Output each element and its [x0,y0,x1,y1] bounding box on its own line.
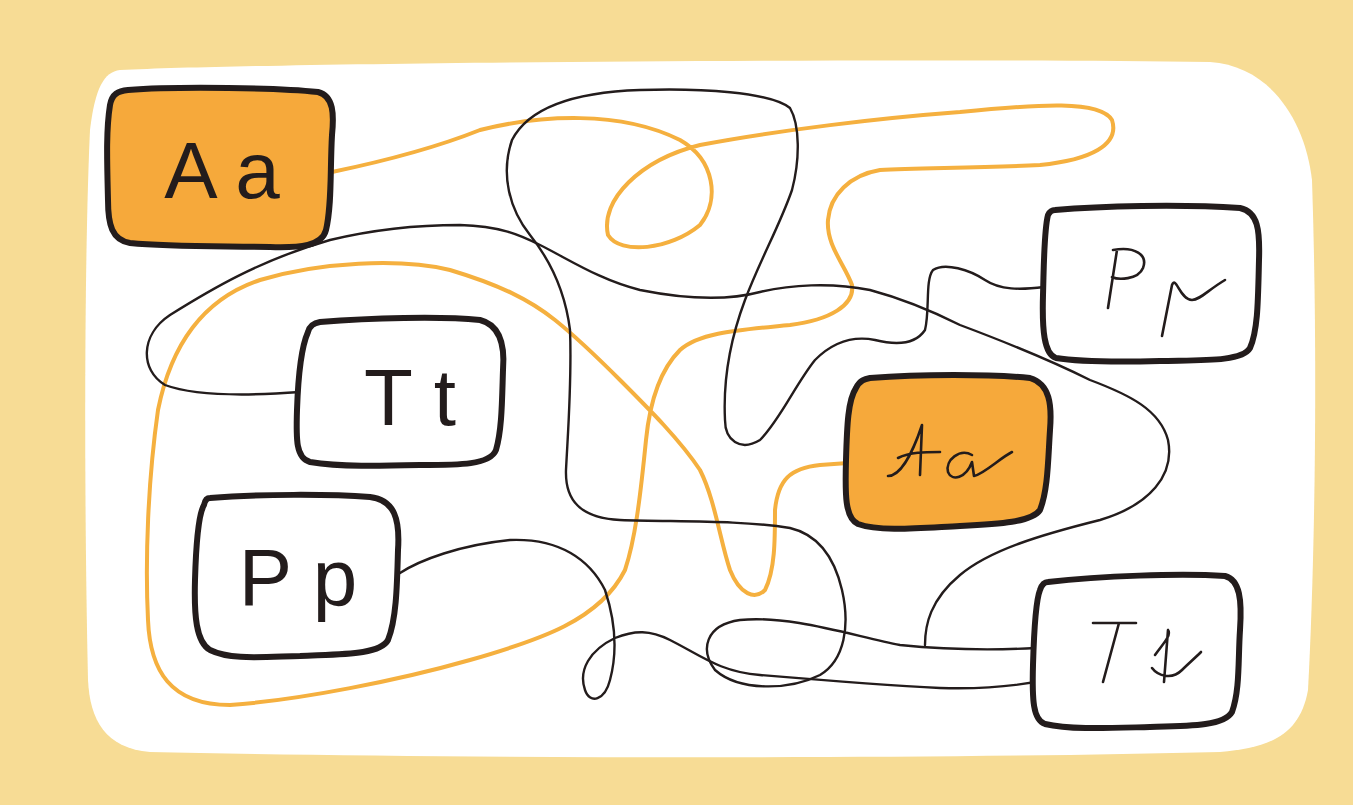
box-print-aa-label: A a [164,126,280,215]
box-print-tt-label: T t [364,353,456,442]
box-cursive-tt[interactable]: T t [1033,575,1241,728]
box-cursive-pp[interactable]: P p [1043,206,1259,362]
letter-maze-illustration: A a T t P p P p A a [0,0,1353,805]
maze-artwork: A a T t P p P p A a [0,0,1353,805]
box-print-aa[interactable]: A a [107,88,333,247]
box-print-tt[interactable]: T t [297,318,504,466]
box-cursive-pp-frame [1043,206,1259,362]
box-cursive-tt-frame [1033,575,1241,728]
box-print-pp-label: P p [239,533,358,622]
box-cursive-aa[interactable]: A a [846,375,1051,529]
box-cursive-aa-frame [846,375,1051,529]
box-print-pp[interactable]: P p [195,495,399,657]
